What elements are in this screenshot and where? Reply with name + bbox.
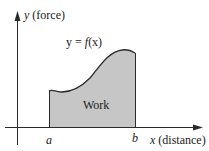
lower-bound-label: a — [46, 133, 52, 147]
work-region — [49, 50, 135, 127]
x-axis-label: x(distance) — [149, 133, 206, 147]
work-integral-diagram: y(force) y = f(x) Work a b x(distance) — [0, 0, 209, 151]
y-axis-arrow-icon — [15, 11, 21, 21]
curve-label: y = f(x) — [66, 35, 102, 49]
work-label: Work — [83, 98, 109, 112]
y-axis-label: y(force) — [23, 8, 65, 22]
upper-bound-label: b — [132, 131, 138, 145]
x-axis-arrow-icon — [193, 125, 203, 131]
